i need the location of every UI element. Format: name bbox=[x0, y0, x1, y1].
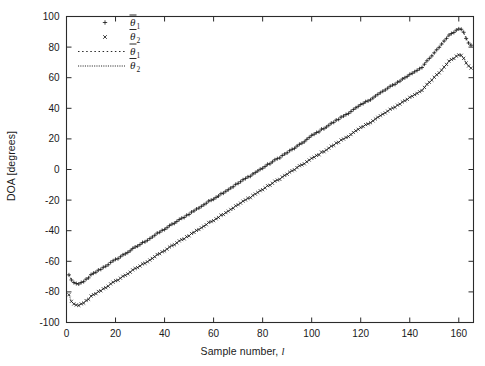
y-axis-ticks: -100-80-60-40-20020406080100 bbox=[39, 11, 473, 328]
data-series-layer bbox=[67, 27, 473, 307]
series-theta_bar_2_estimate bbox=[67, 53, 472, 307]
plus-marker-icon bbox=[103, 20, 107, 24]
y-tick-label: 0 bbox=[54, 164, 60, 175]
x-tick-label: 140 bbox=[401, 328, 418, 339]
y-tick-label: 60 bbox=[48, 72, 60, 83]
series-theta_bar_1_estimate bbox=[67, 27, 473, 286]
y-tick-label: 100 bbox=[43, 11, 60, 22]
y-tick-label: 20 bbox=[48, 133, 60, 144]
plot-frame bbox=[67, 17, 474, 323]
x-tick-label: 20 bbox=[110, 328, 122, 339]
x-axis-ticks: 020406080100120140160 bbox=[64, 17, 468, 339]
chart-legend: θ1θ2θ1θ2 bbox=[78, 15, 140, 74]
legend-label: θ2 bbox=[130, 59, 140, 74]
y-axis-title: DOA [degrees] bbox=[5, 101, 17, 231]
x-axis-title: Sample number, l bbox=[0, 345, 485, 357]
x-tick-label: 40 bbox=[159, 328, 171, 339]
chart-figure: 020406080100120140160 -100-80-60-40-2002… bbox=[0, 0, 485, 366]
legend-label: θ1 bbox=[130, 45, 140, 60]
y-tick-label: -20 bbox=[45, 195, 60, 206]
y-tick-label: 80 bbox=[48, 42, 60, 53]
legend-item-4: θ2 bbox=[78, 59, 140, 75]
x-tick-label: 100 bbox=[303, 328, 320, 339]
legend-item-3: θ1 bbox=[78, 44, 140, 60]
x-tick-label: 120 bbox=[352, 328, 369, 339]
x-axis-title-text: Sample number, bbox=[201, 345, 282, 357]
y-tick-label: -80 bbox=[45, 286, 60, 297]
x-tick-label: 160 bbox=[450, 328, 467, 339]
y-tick-label: 40 bbox=[48, 103, 60, 114]
y-tick-label: -40 bbox=[45, 225, 60, 236]
y-tick-label: -60 bbox=[45, 256, 60, 267]
x-tick-label: 60 bbox=[208, 328, 220, 339]
legend-label: θ2 bbox=[130, 30, 140, 45]
cross-marker-icon bbox=[103, 35, 107, 39]
x-axis-title-symbol: l bbox=[281, 346, 284, 357]
y-tick-label: -100 bbox=[39, 317, 59, 328]
legend-item-2: θ2 bbox=[103, 30, 140, 46]
x-tick-label: 0 bbox=[64, 328, 70, 339]
chart-canvas: 020406080100120140160 -100-80-60-40-2002… bbox=[0, 0, 485, 366]
legend-item-1: θ1 bbox=[103, 15, 141, 31]
x-tick-label: 80 bbox=[257, 328, 269, 339]
legend-label: θ1 bbox=[130, 16, 140, 31]
